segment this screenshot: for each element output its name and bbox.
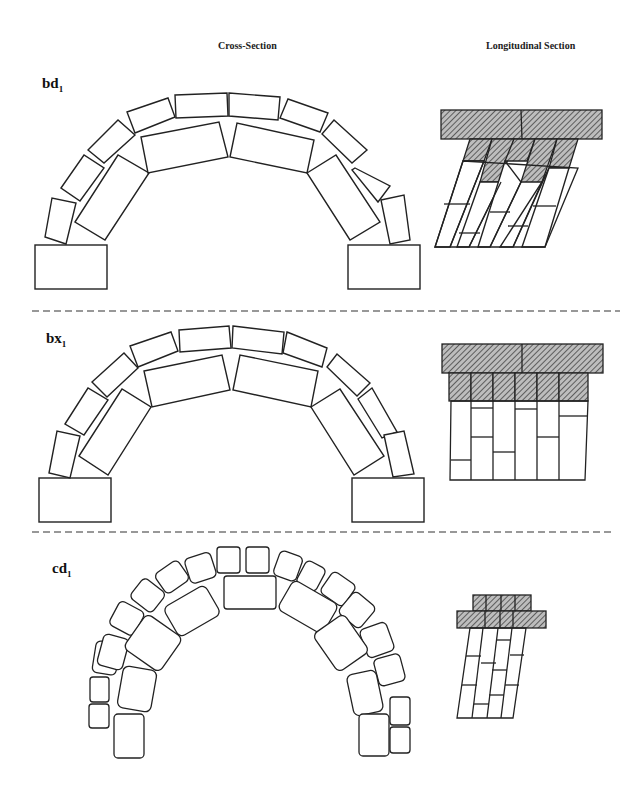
bx1-cross-section xyxy=(39,326,424,522)
bd1-longitudinal-section xyxy=(435,110,602,247)
left-abutment xyxy=(35,245,107,289)
right-abutment xyxy=(348,245,420,289)
bx1-longitudinal-section xyxy=(442,344,603,480)
cd1-cross-section xyxy=(89,547,410,758)
cd1-longitudinal-section xyxy=(457,595,546,718)
diagram-canvas xyxy=(0,0,643,789)
bd1-cross-section xyxy=(35,93,420,289)
